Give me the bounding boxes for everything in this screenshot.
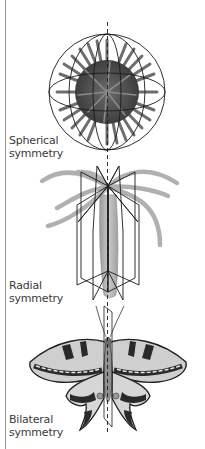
sea-urchin-icon <box>49 34 165 150</box>
symmetry-diagram <box>0 0 205 449</box>
radial-symmetry-label: Radial symmetry <box>9 279 63 305</box>
spherical-symmetry-label: Spherical symmetry <box>9 134 63 160</box>
label-line: Spherical <box>9 134 63 147</box>
label-line: Radial <box>9 279 63 292</box>
bilateral-symmetry-label: Bilateral symmetry <box>9 413 63 439</box>
butterfly-icon <box>30 306 186 430</box>
label-line: Bilateral <box>9 413 63 426</box>
label-line: symmetry <box>9 292 63 305</box>
label-line: symmetry <box>9 147 63 160</box>
label-line: symmetry <box>9 426 63 439</box>
